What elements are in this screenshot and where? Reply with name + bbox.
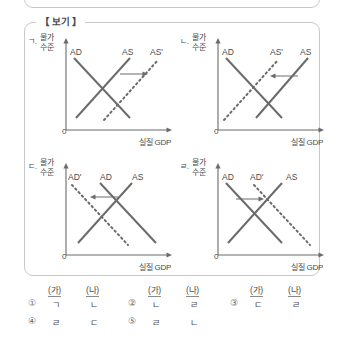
- x-axis-label-n: 실질 GDP: [291, 136, 323, 147]
- choice-column-2: (가) (나) ② ㄴ ㄹ ⑤ ㄹ ㄴ: [128, 283, 226, 333]
- choice-header-na: (나): [288, 283, 301, 297]
- choice-number: ④: [28, 316, 36, 326]
- curve-label-ad: AD: [222, 47, 234, 57]
- choice-column-3: (가) (나) ③ ㄷ ㄹ: [230, 283, 328, 315]
- choice-column-1: (가) (나) ① ㄱ ㄴ ④ ㄹ ㄷ: [28, 283, 126, 333]
- previous-stem-box-edge: [24, 0, 320, 8]
- x-axis-label-d: 실질 GDP: [139, 261, 171, 272]
- choice-value-ga: ㄹ: [52, 316, 60, 329]
- bogi-label: 【 보기 】: [36, 14, 85, 28]
- choice-option-1[interactable]: ① ㄱ ㄴ: [28, 297, 126, 315]
- choice-header-na: (나): [86, 283, 99, 297]
- choice-header-ga: (가): [48, 283, 61, 297]
- choice-value-na: ㄹ: [292, 298, 300, 311]
- choice-number: ②: [128, 298, 136, 308]
- choice-option-4[interactable]: ④ ㄹ ㄷ: [28, 315, 126, 333]
- curve-label-as-prime: AS': [150, 47, 163, 57]
- choice-number: ③: [230, 298, 238, 308]
- curve-label-ad: AD: [100, 172, 112, 182]
- curve-label-as-prime: AS': [270, 47, 283, 57]
- graph-plot-g: AD AS AS': [26, 30, 174, 148]
- curve-label-ad-prime: AD': [250, 172, 264, 182]
- curve-label-as: AS: [286, 172, 298, 182]
- graph-r: ㄹ. 물가 수준 AD AD' AS 0 실질 GDP: [178, 155, 326, 273]
- curve-label-ad: AD: [70, 47, 82, 57]
- choice-option-3[interactable]: ③ ㄷ ㄹ: [230, 297, 328, 315]
- choice-header-1: (가) (나): [28, 283, 126, 297]
- graph-plot-r: AD AD' AS: [178, 155, 326, 273]
- choice-header-3: (가) (나): [230, 283, 328, 297]
- choice-value-na: ㄴ: [90, 298, 98, 311]
- choice-header-ga: (가): [148, 283, 161, 297]
- curve-label-as: AS: [132, 172, 144, 182]
- choice-option-5[interactable]: ⑤ ㄹ ㄴ: [128, 315, 226, 333]
- choice-header-2: (가) (나): [128, 283, 226, 297]
- curve-label-ad: AD: [222, 172, 234, 182]
- graph-n: ㄴ. 물가 수준 AD AS' AS 0 실질 GDP: [178, 30, 326, 148]
- origin-label-n: 0: [214, 127, 218, 136]
- choice-value-ga: ㄷ: [254, 298, 262, 311]
- x-axis-label-r: 실질 GDP: [291, 261, 323, 272]
- curve-label-as: AS: [122, 47, 134, 57]
- choice-option-2[interactable]: ② ㄴ ㄹ: [128, 297, 226, 315]
- answer-choices: (가) (나) ① ㄱ ㄴ ④ ㄹ ㄷ (가) (나) ② ㄴ ㄹ ⑤ ㄹ ㄴ: [24, 283, 320, 335]
- choice-value-ga: ㄱ: [52, 298, 60, 311]
- choice-value-na: ㄹ: [190, 298, 198, 311]
- origin-label-d: 0: [62, 252, 66, 261]
- choice-number: ①: [28, 298, 36, 308]
- choice-value-ga: ㄴ: [152, 298, 160, 311]
- graph-plot-n: AD AS' AS: [178, 30, 326, 148]
- choice-number: ⑤: [128, 316, 136, 326]
- curve-label-ad-prime: AD': [68, 172, 82, 182]
- choice-header-na: (나): [186, 283, 199, 297]
- choice-value-na: ㄴ: [190, 316, 198, 329]
- curve-label-as: AS: [300, 47, 312, 57]
- choice-value-ga: ㄹ: [152, 316, 160, 329]
- origin-label-g: 0: [62, 127, 66, 136]
- choice-header-ga: (가): [250, 283, 263, 297]
- x-axis-label-g: 실질 GDP: [139, 136, 171, 147]
- origin-label-r: 0: [214, 252, 218, 261]
- choice-value-na: ㄷ: [90, 316, 98, 329]
- graph-plot-d: AD' AD AS: [26, 155, 174, 273]
- graph-g: ㄱ. 물가 수준 AD AS AS' 0 실질 GDP: [26, 30, 174, 148]
- graph-d: ㄷ. 물가 수준 AD' AD AS 0 실질 GDP: [26, 155, 174, 273]
